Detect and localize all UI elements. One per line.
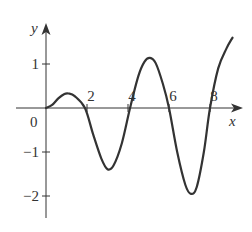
y-tick-label: −1 bbox=[23, 144, 39, 160]
y-tick-label: −2 bbox=[23, 188, 39, 204]
x-tick-label: 6 bbox=[169, 88, 177, 104]
chart: 2468 x 1−1−2 y 0 bbox=[0, 0, 252, 232]
x-axis-label: x bbox=[228, 113, 236, 129]
function-curve bbox=[46, 38, 233, 194]
y-tick-label: 1 bbox=[32, 56, 40, 72]
x-tick-label: 2 bbox=[87, 88, 95, 104]
origin-label: 0 bbox=[30, 114, 38, 130]
y-axis-label: y bbox=[29, 20, 38, 36]
